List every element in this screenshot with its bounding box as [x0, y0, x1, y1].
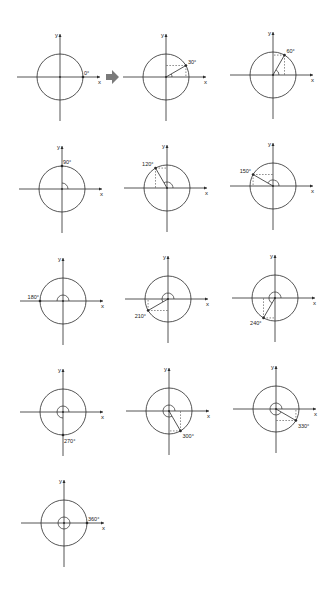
origin-point	[166, 187, 168, 189]
rotated-point	[62, 434, 65, 437]
y-axis-label: y	[271, 364, 274, 370]
y-axis-arrow-icon	[168, 368, 171, 371]
x-axis-label: x	[204, 79, 207, 85]
angle-label: 360°	[88, 516, 99, 522]
y-axis-label: y	[58, 367, 61, 373]
angle-label: 300°	[183, 433, 194, 439]
diagram-210-deg: xy210°	[125, 254, 209, 343]
angle-label: 90°	[63, 159, 71, 165]
origin-point	[168, 410, 170, 412]
unit-circle-rotation-figure: xy0°xy30°xy60°xy90°xy120°xy150°xy180°xy2…	[0, 0, 333, 600]
radius-line	[148, 299, 168, 311]
rotated-point	[295, 419, 298, 422]
origin-point	[62, 300, 64, 302]
x-axis-label: x	[98, 79, 101, 85]
rotated-point	[82, 76, 85, 79]
origin-point	[167, 298, 169, 300]
diagram-270-deg: xy270°	[20, 367, 104, 456]
y-axis-arrow-icon	[165, 34, 168, 37]
x-axis-label: x	[313, 300, 316, 306]
x-axis-label: x	[206, 301, 209, 307]
angle-label: 330°	[298, 423, 309, 429]
y-axis-label: y	[55, 32, 58, 38]
y-axis-label: y	[164, 366, 167, 372]
diagram-30-deg: xy30°	[123, 32, 207, 121]
y-axis-label: y	[270, 253, 273, 259]
rotated-point	[147, 309, 150, 312]
right-arrow-icon	[106, 70, 119, 84]
origin-point	[275, 408, 277, 410]
angle-label: 150°	[240, 168, 251, 174]
x-axis-label: x	[100, 191, 103, 197]
origin-point	[61, 188, 63, 190]
y-axis-label: y	[268, 141, 271, 147]
rotated-point	[179, 430, 182, 433]
angle-label: 0°	[84, 70, 89, 76]
angle-label: 240°	[250, 320, 261, 326]
x-axis-label: x	[101, 303, 104, 309]
rotation-arc	[171, 74, 172, 77]
angle-label: 210°	[135, 313, 146, 319]
radius-line	[276, 409, 296, 421]
rotated-point	[262, 317, 265, 320]
rotated-point	[154, 167, 157, 170]
rotation-arc	[268, 180, 279, 186]
angle-label: 270°	[64, 438, 75, 444]
y-axis-label: y	[268, 30, 271, 36]
x-axis-label: x	[311, 77, 314, 83]
diagram-150-deg: xy150°	[230, 141, 314, 230]
x-axis-label: x	[102, 525, 105, 531]
y-axis-label: y	[59, 478, 62, 484]
y-axis-label: y	[163, 254, 166, 260]
y-axis-arrow-icon	[61, 146, 64, 149]
x-axis-label: x	[101, 414, 104, 420]
diagram-300-deg: xy300°	[126, 366, 210, 455]
diagram-60-deg: xy60°	[230, 30, 314, 119]
x-axis-label: x	[314, 411, 317, 417]
y-axis-label: y	[162, 143, 165, 149]
diagram-360-deg: xy360°	[21, 478, 105, 567]
y-axis-arrow-icon	[62, 258, 65, 261]
origin-point	[272, 185, 274, 187]
y-axis-arrow-icon	[167, 256, 170, 259]
diagram-240-deg: xy240°	[232, 253, 316, 342]
origin-point	[272, 74, 274, 76]
x-axis-label: x	[311, 188, 314, 194]
diagram-330-deg: xy330°	[233, 364, 317, 453]
radius-line	[156, 168, 168, 188]
angle-label: 30°	[188, 59, 196, 65]
y-axis-label: y	[161, 32, 164, 38]
diagram-120-deg: xy120°	[124, 143, 208, 232]
origin-point	[59, 76, 61, 78]
radius-line	[169, 411, 181, 431]
x-axis-label: x	[205, 190, 208, 196]
diagram-90-deg: xy90°	[19, 144, 103, 233]
rotation-arc	[62, 183, 68, 189]
origin-point	[63, 522, 65, 524]
radius-line	[273, 55, 285, 75]
diagram-180-deg: xy180°	[20, 256, 104, 345]
rotated-point	[283, 54, 286, 57]
y-axis-arrow-icon	[272, 32, 275, 35]
rotation-arc	[276, 70, 279, 75]
angle-label: 60°	[287, 48, 295, 54]
origin-point	[165, 76, 167, 78]
radius-line	[166, 66, 186, 78]
y-axis-arrow-icon	[274, 255, 277, 258]
origin-point	[62, 411, 64, 413]
y-axis-arrow-icon	[166, 145, 169, 148]
y-axis-arrow-icon	[275, 366, 278, 369]
rotated-point	[86, 522, 89, 525]
y-axis-arrow-icon	[63, 480, 66, 483]
y-axis-arrow-icon	[59, 34, 62, 37]
y-axis-label: y	[57, 144, 60, 150]
y-axis-arrow-icon	[62, 369, 65, 372]
angle-label: 120°	[142, 161, 153, 167]
angle-label: 180°	[28, 294, 39, 300]
x-axis-label: x	[207, 413, 210, 419]
rotated-point	[252, 173, 255, 176]
y-axis-label: y	[58, 256, 61, 262]
diagram-canvas: xy0°xy30°xy60°xy90°xy120°xy150°xy180°xy2…	[0, 0, 333, 600]
rotated-point	[185, 64, 188, 67]
radius-line	[264, 298, 276, 318]
